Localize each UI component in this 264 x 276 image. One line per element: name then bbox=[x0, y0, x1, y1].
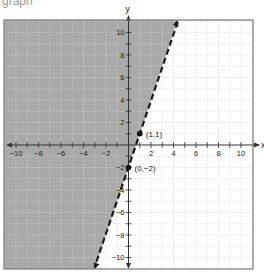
x-tick-label: 8 bbox=[216, 149, 220, 158]
data-point bbox=[126, 165, 132, 171]
x-tick-label: 10 bbox=[237, 149, 245, 158]
y-tick-label: 2 bbox=[120, 118, 124, 127]
x-tick-label: −4 bbox=[79, 149, 88, 158]
inequality-graph: graph −10−8−6−4−2246810108642−2−4−6−8−10… bbox=[0, 0, 264, 276]
y-tick-label: 10 bbox=[116, 28, 124, 37]
x-tick-label: −2 bbox=[102, 149, 111, 158]
x-tick-label: 4 bbox=[171, 149, 175, 158]
x-axis-label: x bbox=[261, 140, 264, 150]
x-tick-label: −8 bbox=[34, 149, 43, 158]
y-tick-label: −8 bbox=[116, 231, 125, 240]
y-tick-label: −2 bbox=[116, 163, 125, 172]
y-axis-label: y bbox=[125, 4, 130, 14]
y-tick-label: −10 bbox=[112, 253, 125, 262]
y-tick-label: −6 bbox=[116, 208, 125, 217]
data-point bbox=[137, 131, 143, 137]
point-label: (0,−2) bbox=[135, 164, 156, 173]
x-tick-label: 2 bbox=[149, 149, 153, 158]
plot-area: −10−8−6−4−2246810108642−2−4−6−8−10xy(1,1… bbox=[0, 0, 264, 276]
x-tick-label: −6 bbox=[57, 149, 66, 158]
x-axis-right-arrow-icon bbox=[254, 143, 260, 148]
point-label: (1,1) bbox=[146, 130, 163, 139]
x-tick-label: 6 bbox=[194, 149, 198, 158]
x-tick-label: −10 bbox=[10, 149, 23, 158]
y-tick-label: 6 bbox=[120, 73, 124, 82]
y-tick-label: 4 bbox=[120, 96, 124, 105]
y-tick-label: 8 bbox=[120, 51, 124, 60]
cut-off-heading: graph bbox=[2, 0, 33, 8]
